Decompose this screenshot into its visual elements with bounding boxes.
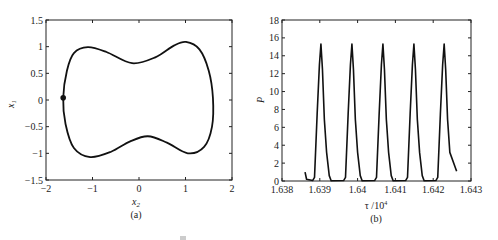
pulse-waveform-curve	[305, 44, 457, 181]
x-tick-label: 0	[137, 183, 142, 194]
y-tick-label: 1	[38, 41, 43, 52]
y-axis-label-b: P	[255, 97, 266, 104]
x-tick-label: 1.641	[384, 184, 407, 195]
figure: −2−10121.510.50−0.5−1−1.5 x2 (a) x1 1.63…	[0, 0, 498, 240]
x-tick-label: 1.643	[460, 184, 483, 195]
panel-label-a: (a)	[130, 209, 141, 221]
y-tick-label: −1.5	[25, 175, 43, 186]
y-tick-label: 0.5	[31, 68, 44, 79]
y-tick-label: 4	[274, 140, 279, 151]
x-tick-label: 1	[183, 183, 188, 194]
y-tick-label: 0	[274, 176, 279, 187]
y-tick-label: 8	[274, 104, 279, 115]
y-tick-label: 1.5	[31, 15, 44, 26]
limit-cycle-curve	[63, 42, 213, 157]
axis-ticks-a: −2−10121.510.50−0.5−1−1.5	[25, 15, 235, 195]
y-tick-label: 0	[38, 95, 43, 106]
y-tick-label: 16	[269, 32, 279, 43]
x-tick-label: 1.639	[309, 184, 332, 195]
y-tick-label: 14	[269, 50, 279, 61]
y-tick-label: 12	[269, 68, 279, 79]
y-tick-label: 2	[274, 158, 279, 169]
pressure-time-chart: 1.6381.6391.641.6411.6421.64302468101214…	[255, 15, 482, 226]
x-tick-label: 1.64	[349, 184, 367, 195]
y-tick-label: 6	[274, 122, 279, 133]
panel-label-b: (b)	[370, 213, 382, 225]
x-axis-label-b: τ /104	[365, 200, 387, 211]
plot-frame-a	[46, 20, 232, 180]
x-tick-label: −1	[87, 183, 98, 194]
caption-fragment	[180, 236, 186, 240]
phase-plane-chart: −2−10121.510.50−0.5−1−1.5 x2 (a) x1	[5, 15, 235, 222]
x-tick-label: 1.642	[422, 184, 445, 195]
y-tick-label: 18	[269, 15, 279, 26]
y-tick-label: 10	[269, 86, 279, 97]
plot-frame-b	[282, 20, 471, 181]
y-tick-label: −0.5	[25, 121, 43, 132]
start-point-marker	[60, 95, 66, 101]
y-tick-label: −1	[32, 148, 43, 159]
x-axis-label-a: x2	[131, 196, 140, 209]
axis-ticks-b: 1.6381.6391.641.6411.6421.64302468101214…	[269, 15, 482, 196]
y-axis-label-a: x1	[5, 100, 18, 109]
x-tick-label: 2	[230, 183, 235, 194]
